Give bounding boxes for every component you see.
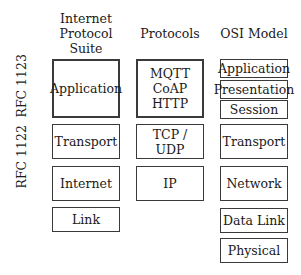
rfc-1122-label: RFC 1122 [14,133,29,189]
protocols-internet: IP [136,166,204,201]
osi-layer-network: Network [220,166,288,201]
ips-layer-application: Application [52,59,120,118]
header-osi-model: OSI Model [214,26,294,41]
osi-layer-application: Application [220,59,288,78]
ips-layer-transport: Transport [52,124,120,159]
protocols-application: MQTT CoAP HTTP [136,59,204,118]
ips-layer-link: Link [52,207,120,232]
protocols-transport: TCP / UDP [136,124,204,159]
rfc-1123-label: RFC 1123 [14,62,29,118]
osi-layer-presentation: Presentation [220,80,288,99]
header-protocols: Protocols [130,26,210,41]
osi-layer-session: Session [220,100,288,119]
osi-layer-physical: Physical [220,238,288,263]
header-internet-protocol-suite: Internet Protocol Suite [46,11,126,56]
osi-layer-data-link: Data Link [220,208,288,233]
ips-layer-internet: Internet [52,166,120,201]
osi-layer-transport: Transport [220,124,288,159]
